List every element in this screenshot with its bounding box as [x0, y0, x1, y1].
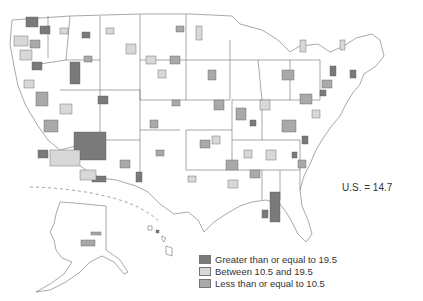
alaska-inset — [36, 202, 128, 292]
legend-label-high: Greater than or equal to 19.5 — [215, 254, 337, 265]
legend-swatch-high — [199, 255, 211, 264]
hawaii-inset — [148, 226, 172, 256]
legend-swatch-mid — [199, 267, 211, 276]
map-legend: Greater than or equal to 19.5 Between 10… — [199, 253, 337, 289]
legend-label-low: Less than or equal to 10.5 — [215, 278, 325, 289]
legend-swatch-low — [199, 279, 211, 288]
legend-item-mid: Between 10.5 and 19.5 — [199, 265, 337, 277]
legend-item-low: Less than or equal to 10.5 — [199, 277, 337, 289]
us-average-label: U.S. = 14.7 — [342, 182, 392, 193]
legend-item-high: Greater than or equal to 19.5 — [199, 253, 337, 265]
legend-label-mid: Between 10.5 and 19.5 — [215, 266, 313, 277]
